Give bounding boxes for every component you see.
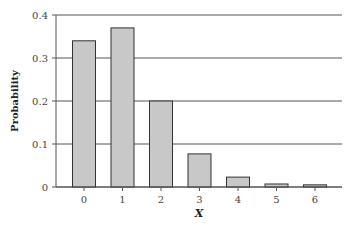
chart: 00.10.20.30.40123456XProbability bbox=[0, 0, 351, 229]
x-tick-label: 2 bbox=[158, 194, 164, 205]
y-tick-label: 0.3 bbox=[32, 53, 48, 64]
x-tick-label: 1 bbox=[119, 194, 125, 205]
y-tick-label: 0.1 bbox=[32, 139, 48, 150]
y-tick-label: 0.4 bbox=[32, 10, 48, 21]
x-tick-label: 0 bbox=[81, 194, 87, 205]
bar-chart: 00.10.20.30.40123456XProbability bbox=[0, 0, 351, 229]
y-tick-label: 0 bbox=[42, 182, 48, 193]
bar bbox=[73, 41, 96, 187]
bar bbox=[150, 101, 173, 187]
x-tick-label: 5 bbox=[273, 194, 279, 205]
x-axis-label: X bbox=[194, 207, 204, 220]
bar bbox=[111, 28, 134, 187]
bar bbox=[188, 154, 211, 187]
y-tick-label: 0.2 bbox=[32, 96, 48, 107]
x-tick-label: 4 bbox=[235, 194, 241, 205]
bar bbox=[227, 177, 250, 187]
x-tick-label: 6 bbox=[312, 194, 318, 205]
x-tick-label: 3 bbox=[196, 194, 202, 205]
y-axis-label: Probability bbox=[9, 69, 20, 132]
